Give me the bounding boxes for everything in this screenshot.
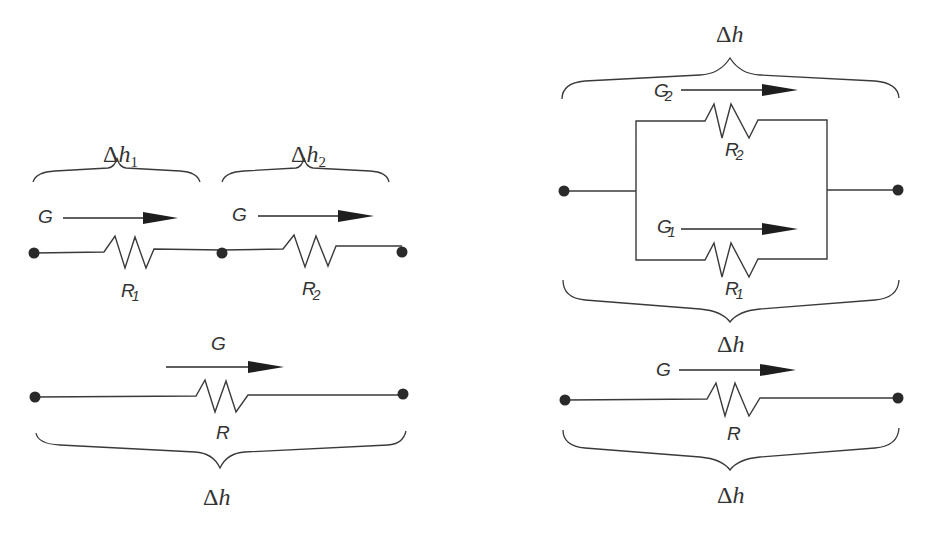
series-circuit: Δh1 Δh2 G G R1 R2 bbox=[29, 141, 408, 304]
parallel-top-brace-label: Δh bbox=[716, 21, 743, 47]
series-node-left bbox=[29, 248, 40, 259]
series-arrow-2-icon bbox=[338, 210, 374, 222]
series-equivalent-node-left bbox=[30, 392, 41, 403]
parallel-flow-label-2: G2 bbox=[654, 80, 673, 104]
series-brace-2 bbox=[222, 158, 389, 182]
parallel-equivalent-resistor-label: R bbox=[727, 423, 741, 444]
parallel-equivalent-node-right bbox=[893, 393, 904, 404]
parallel-equivalent-node-left bbox=[560, 395, 571, 406]
parallel-bottom-brace-label: Δh bbox=[717, 331, 744, 357]
series-arrow-1-icon bbox=[143, 212, 178, 224]
series-equivalent-wire bbox=[35, 380, 403, 412]
parallel-equivalent-flow-label: G bbox=[656, 359, 671, 380]
series-flow-label-2: G bbox=[232, 204, 247, 225]
series-resistor-label-1: R1 bbox=[121, 280, 140, 304]
parallel-node-left bbox=[559, 186, 570, 197]
series-equivalent-arrow-icon bbox=[248, 361, 284, 373]
parallel-equivalent-arrow-icon bbox=[760, 364, 796, 376]
series-node-middle bbox=[217, 248, 228, 259]
series-resistor-label-2: R2 bbox=[302, 278, 321, 303]
parallel-top-brace bbox=[562, 58, 899, 99]
series-brace-1 bbox=[33, 158, 200, 182]
parallel-arrow-1-icon bbox=[762, 223, 798, 235]
series-flow-label-1: G bbox=[38, 206, 53, 227]
parallel-arrow-2-icon bbox=[762, 84, 798, 96]
parallel-resistor-label-2: R2 bbox=[725, 139, 744, 163]
parallel-resistor-label-1: R1 bbox=[725, 278, 744, 302]
series-equivalent-node-right bbox=[398, 389, 409, 400]
parallel-equivalent-wire bbox=[565, 383, 898, 416]
series-equivalent-resistor-label: R bbox=[216, 422, 230, 443]
series-node-right bbox=[397, 247, 408, 258]
series-equivalent-brace-label: Δh bbox=[203, 484, 230, 510]
parallel-node-right bbox=[893, 185, 904, 196]
parallel-flow-label-1: G1 bbox=[657, 216, 676, 240]
series-equivalent-circuit: G R Δh bbox=[30, 333, 409, 510]
series-equivalent-flow-label: G bbox=[211, 333, 226, 354]
parallel-circuit: Δh G2 R2 G1 R1 Δh bbox=[559, 21, 904, 357]
parallel-equivalent-circuit: G R Δh bbox=[560, 359, 904, 508]
diagram-canvas: Δh1 Δh2 G G R1 R2 G bbox=[0, 0, 944, 533]
parallel-equivalent-brace-label: Δh bbox=[717, 482, 744, 508]
